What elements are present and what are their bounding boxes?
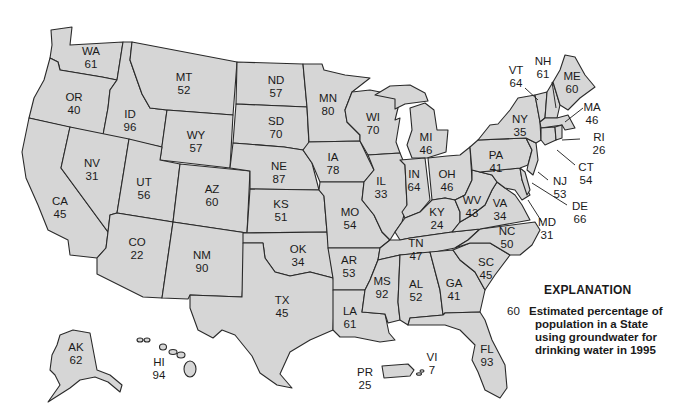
label-la: LA61 <box>343 305 357 331</box>
state-ny[interactable] <box>478 95 541 143</box>
label-ks: KS51 <box>273 198 288 224</box>
state-ri[interactable] <box>555 125 562 140</box>
label-nj: NJ53 <box>553 175 567 201</box>
label-id: ID96 <box>124 108 137 134</box>
label-sc: SC45 <box>478 256 494 282</box>
label-de: DE66 <box>572 200 588 226</box>
label-ma: MA46 <box>583 101 600 127</box>
territory-vi[interactable] <box>417 370 425 375</box>
state-ct[interactable] <box>541 127 556 145</box>
state-hi[interactable] <box>137 338 196 377</box>
label-ny: NY35 <box>512 113 528 139</box>
legend-title: EXPLANATION <box>544 283 631 297</box>
label-tn: TN47 <box>408 237 423 263</box>
label-mo: MO54 <box>341 206 360 232</box>
state-ak[interactable] <box>48 330 122 402</box>
label-pr: PR25 <box>357 366 373 392</box>
label-ok: OK34 <box>290 243 307 269</box>
label-ut: UT56 <box>136 176 151 202</box>
label-vi: VI7 <box>427 351 438 377</box>
label-wi: WI70 <box>366 111 380 137</box>
label-il: IL33 <box>375 175 388 201</box>
label-wy: WY57 <box>187 129 206 155</box>
label-nm: NM90 <box>193 249 211 275</box>
label-hi: HI94 <box>153 356 166 382</box>
label-co: AZ60 <box>205 183 220 209</box>
label-ne: NE87 <box>271 160 287 186</box>
label-nv: NV31 <box>84 157 100 183</box>
label-ak: AK62 <box>68 341 83 367</box>
label-ms: MS92 <box>373 275 390 301</box>
label-ga: GA41 <box>446 277 463 303</box>
label-ca: CA45 <box>52 195 68 221</box>
label-ky: KY24 <box>429 206 444 232</box>
label-sd: SD70 <box>268 115 284 141</box>
label-ar: AR53 <box>341 254 357 280</box>
label-al: AL52 <box>409 278 423 304</box>
label-pa: PA41 <box>489 149 504 175</box>
label-wv: WV43 <box>463 194 482 220</box>
label-nh: NH61 <box>535 55 552 81</box>
label-az: CO22 <box>128 236 145 262</box>
label-or: OR40 <box>65 91 82 117</box>
legend-description: Estimated percentage of population in a … <box>529 305 676 357</box>
label-nd: ND57 <box>268 74 285 100</box>
label-tx: TX45 <box>275 294 290 320</box>
label-wa: WA61 <box>82 45 100 71</box>
label-ct: CT54 <box>578 161 593 187</box>
label-oh: OH46 <box>438 168 455 194</box>
legend-sample-value: 60 <box>507 305 520 317</box>
label-ia: IA78 <box>327 151 340 177</box>
label-md: MD31 <box>538 216 556 242</box>
label-vt: VT64 <box>509 64 524 90</box>
label-nc: NC50 <box>499 225 516 251</box>
label-va: VA34 <box>493 197 508 223</box>
label-mi: MI46 <box>420 131 433 157</box>
label-in: IN64 <box>408 168 421 194</box>
label-mt: MT52 <box>176 71 193 97</box>
territory-pr[interactable] <box>382 364 414 378</box>
label-me: ME60 <box>563 70 580 96</box>
label-fl: FL93 <box>480 343 493 369</box>
label-ri: RI26 <box>593 131 606 157</box>
label-mn: MN80 <box>319 92 337 118</box>
